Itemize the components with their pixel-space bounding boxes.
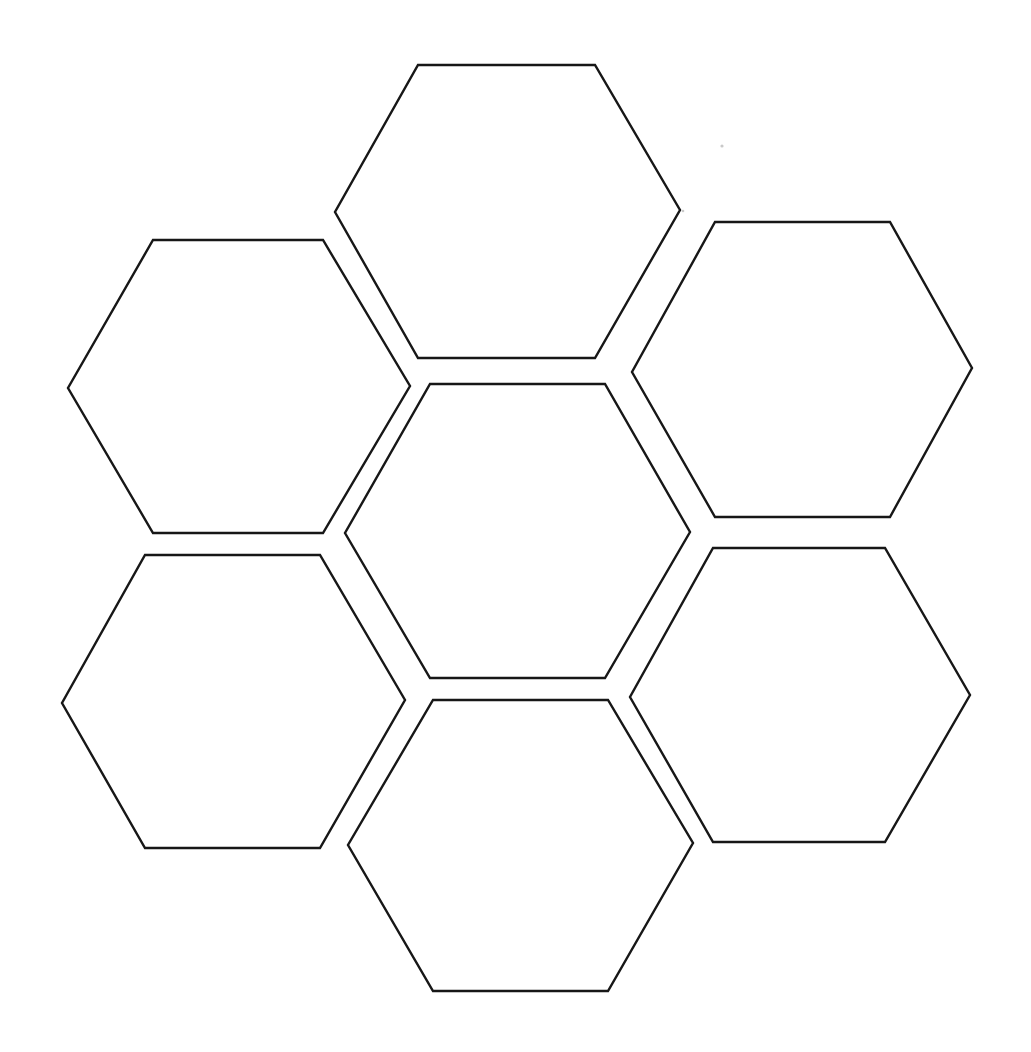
scan-speck — [682, 210, 685, 213]
scan-speck — [720, 144, 723, 147]
hexagon-template-page — [0, 0, 1031, 1052]
hexagon-diagram — [0, 0, 1031, 1052]
